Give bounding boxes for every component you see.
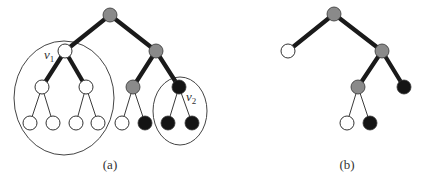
panel-b-edge-root-w bbox=[288, 14, 334, 51]
panel-a-node-l2-white bbox=[79, 80, 93, 94]
panel-b-node-g1-gray bbox=[351, 80, 365, 94]
panel-b-node-root-gray bbox=[327, 7, 341, 21]
panel-b-tree: (b) bbox=[281, 7, 411, 172]
panel-a-node-g1-gray bbox=[126, 80, 140, 94]
panel-a-node-b-white bbox=[46, 116, 60, 130]
panel-a-node-l1-white bbox=[35, 80, 49, 94]
tree-figure: v1 v2 (a) (b) bbox=[0, 0, 427, 182]
panel-a-node-e-white bbox=[115, 116, 129, 130]
panel-b-node-r1-gray bbox=[375, 44, 389, 58]
panel-a-node-f-black bbox=[138, 116, 152, 130]
panel-a-edge-root-v1 bbox=[65, 15, 110, 51]
panel-a-node-r1-gray bbox=[149, 44, 163, 58]
panel-a-node-g-black bbox=[161, 116, 175, 130]
panel-a-edge-root-r1 bbox=[110, 15, 156, 51]
panel-a-node-h-black bbox=[185, 116, 199, 130]
panel-b-node-k-black bbox=[397, 80, 411, 94]
panel-a-tree: v1 v2 (a) bbox=[14, 8, 207, 172]
panel-a-node-root-gray bbox=[103, 8, 117, 22]
panel-b-edge-root-r1 bbox=[334, 14, 382, 51]
v1-label: v1 bbox=[44, 47, 54, 64]
panel-a-node-d-white bbox=[91, 116, 105, 130]
panel-a-caption: (a) bbox=[103, 157, 117, 172]
panel-a-node-a-white bbox=[23, 116, 37, 130]
panel-a-node-v2-black bbox=[172, 80, 186, 94]
panel-b-caption: (b) bbox=[339, 157, 354, 172]
panel-b-node-w-white bbox=[281, 44, 295, 58]
v2-label: v2 bbox=[186, 89, 196, 106]
panel-b-node-f-black bbox=[363, 116, 377, 130]
panel-a-node-c-white bbox=[69, 116, 83, 130]
panel-a-node-v1-white bbox=[58, 44, 72, 58]
panel-b-node-e-white bbox=[340, 116, 354, 130]
